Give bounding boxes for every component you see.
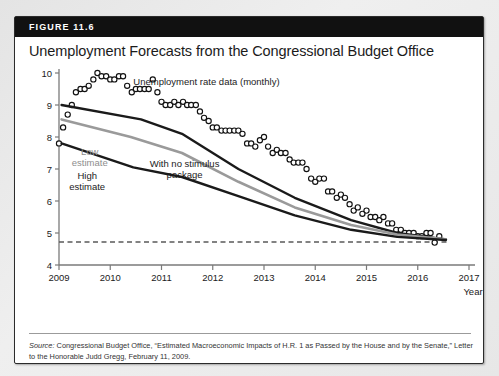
data-point [381, 214, 386, 219]
source-label: Source: [29, 341, 54, 350]
x-tick-label: 2013 [253, 272, 274, 283]
annotation-with-no-stimulus-package: With no stimuluspackage [150, 158, 220, 180]
page-background: FIGURE 11.6 Unemployment Forecasts from … [0, 0, 499, 376]
x-tick-label: 2009 [48, 272, 69, 283]
source-text: Congressional Budget Office, “Estimated … [29, 341, 473, 361]
data-point [146, 86, 151, 91]
data-point [432, 240, 437, 245]
data-point [91, 77, 96, 82]
data-point [125, 83, 130, 88]
data-point [355, 205, 360, 210]
x-axis-label: Year [463, 286, 482, 297]
series-line-with-no-stimulus-package [62, 105, 446, 239]
chart-plot-area: Percent456789102009201020112012201320142… [15, 63, 485, 321]
x-tick-label: 2012 [202, 272, 223, 283]
x-tick-label: 2011 [151, 272, 171, 283]
unemployment-forecast-chart: Percent456789102009201020112012201320142… [15, 63, 485, 321]
data-point [65, 112, 70, 117]
x-tick-label: 2017 [458, 272, 479, 283]
data-point [347, 202, 352, 207]
y-tick-label: 9 [47, 100, 52, 111]
data-point [390, 221, 395, 226]
annotation-unemployment-rate-data: Unemployment rate data (monthly) [133, 76, 279, 87]
data-point [61, 125, 66, 130]
y-tick-label: 4 [47, 260, 52, 271]
figure-number-bar: FIGURE 11.6 [15, 17, 483, 37]
data-point [86, 83, 91, 88]
y-tick-label: 6 [47, 196, 52, 207]
figure-card: FIGURE 11.6 Unemployment Forecasts from … [14, 16, 484, 364]
data-point [206, 118, 211, 123]
data-point [197, 109, 202, 114]
series-scatter-unemployment-rate-data [56, 70, 441, 245]
data-point [261, 134, 266, 139]
data-point [283, 150, 288, 155]
data-point [253, 144, 258, 149]
data-point [155, 90, 160, 95]
data-point [364, 208, 369, 213]
y-tick-label: 5 [47, 228, 52, 239]
y-tick-label: 8 [47, 132, 52, 143]
figure-number-label: FIGURE 11.6 [29, 22, 95, 32]
data-point [428, 230, 433, 235]
figure-title: Unemployment Forecasts from the Congress… [29, 43, 469, 59]
y-tick-label: 10 [41, 68, 52, 79]
x-tick-label: 2014 [305, 272, 326, 283]
data-point [266, 144, 271, 149]
data-point [120, 74, 125, 79]
data-point [304, 166, 309, 171]
data-point [300, 160, 305, 165]
x-tick-label: 2016 [407, 272, 428, 283]
data-point [321, 176, 326, 181]
data-point [342, 195, 347, 200]
annotation-high-estimate: Highestimate [69, 170, 105, 192]
data-point [193, 102, 198, 107]
source-note: Source: Congressional Budget Office, “Es… [29, 341, 473, 362]
source-divider [29, 333, 471, 334]
x-tick-label: 2010 [100, 272, 121, 283]
data-point [240, 131, 245, 136]
data-point [330, 189, 335, 194]
x-tick-label: 2015 [356, 272, 377, 283]
y-tick-label: 7 [47, 164, 52, 175]
